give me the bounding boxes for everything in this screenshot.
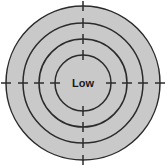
center-label: Low	[72, 77, 94, 89]
concentric-ring-diagram: Low	[0, 0, 167, 167]
ring-diagram-svg: Low	[0, 0, 167, 167]
